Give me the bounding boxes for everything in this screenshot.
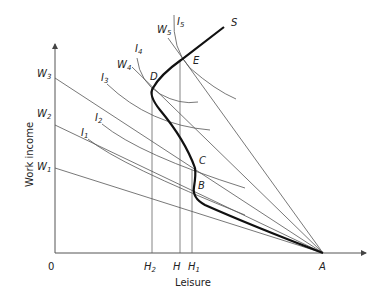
budget-line-w5 — [168, 38, 323, 253]
tick-h2: H2 — [144, 261, 157, 274]
label-w5: W5 — [157, 24, 172, 37]
label-i3: I3 — [101, 72, 108, 85]
curve-s-label: S — [231, 17, 238, 28]
label-i2: I2 — [95, 112, 103, 125]
labour-supply-curve — [152, 27, 323, 253]
tick-h1: H1 — [188, 261, 200, 274]
y-axis-title: Work income — [24, 122, 35, 187]
point-b-label: B — [198, 180, 205, 191]
point-a-label: A — [318, 261, 326, 272]
point-e-label: E — [193, 55, 200, 66]
x-axis-title: Leisure — [175, 277, 211, 288]
point-d-label: D — [150, 71, 158, 82]
label-w4: W4 — [117, 59, 131, 72]
origin-label: 0 — [48, 261, 54, 272]
tick-w1: W1 — [37, 161, 51, 174]
budget-line-w3 — [55, 78, 323, 253]
point-c-label: C — [199, 155, 206, 166]
label-i4: I4 — [135, 43, 142, 56]
tick-w3: W3 — [37, 68, 51, 81]
budget-line-w1 — [55, 168, 323, 253]
label-i5: I5 — [177, 16, 185, 29]
labour-supply-diagram: 0 Leisure Work income A H2 H H1 W1 W2 W3… — [0, 0, 379, 301]
tick-h: H — [173, 261, 181, 272]
tick-w2: W2 — [37, 108, 52, 121]
